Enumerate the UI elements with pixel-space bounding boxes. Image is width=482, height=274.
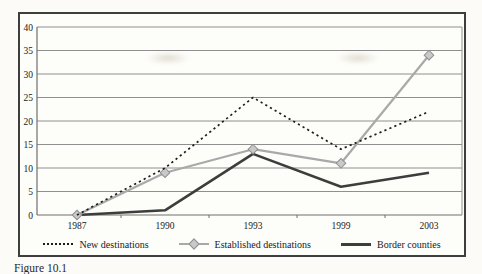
legend-item-border-counties: Border counties: [341, 239, 441, 250]
x-axis-tick-label: 2003: [420, 221, 439, 231]
y-axis-tick-label: 35: [24, 46, 34, 56]
series-line-new-destinations: [77, 98, 429, 216]
chart-legend: New destinations Established destination…: [20, 236, 464, 252]
line-chart: 051015202530354019871990199319992003: [20, 14, 464, 255]
diamond-marker-icon: [188, 238, 199, 249]
legend-item-established-destinations: Established destinations: [179, 239, 311, 250]
x-axis-tick-label: 1987: [68, 221, 87, 231]
y-axis-tick-label: 40: [24, 23, 34, 33]
diamond-data-marker: [248, 144, 258, 154]
y-axis-tick-label: 0: [28, 211, 33, 221]
figure-caption: Figure 10.1: [14, 262, 67, 274]
diamond-data-marker: [160, 168, 170, 178]
y-axis-tick-label: 20: [24, 117, 34, 127]
x-axis-tick-label: 1999: [332, 221, 351, 231]
x-axis-tick-label: 1993: [244, 221, 263, 231]
y-axis-tick-label: 25: [24, 93, 34, 103]
legend-item-new-destinations: New destinations: [43, 239, 148, 250]
dotted-line-swatch-icon: [43, 243, 73, 245]
y-axis-tick-label: 15: [24, 140, 34, 150]
legend-label-border-counties: Border counties: [377, 239, 441, 250]
diamond-data-marker: [72, 210, 82, 220]
solid-line-swatch-icon: [341, 243, 371, 246]
y-axis-tick-label: 5: [28, 187, 33, 197]
series-line-border-counties: [77, 154, 429, 215]
legend-label-new-destinations: New destinations: [79, 239, 148, 250]
chart-figure: 051015202530354019871990199319992003 New…: [18, 12, 466, 257]
x-axis-tick-label: 1990: [156, 221, 175, 231]
legend-label-established-destinations: Established destinations: [215, 239, 311, 250]
y-axis-tick-label: 10: [24, 164, 34, 174]
y-axis-tick-label: 30: [24, 70, 34, 80]
diamond-line-swatch-icon: [179, 243, 209, 245]
